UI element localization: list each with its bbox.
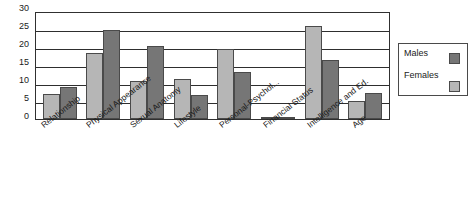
bar-females	[217, 49, 234, 119]
y-tick-label: 15	[19, 58, 29, 67]
y-tick-label: 10	[19, 76, 29, 85]
y-tick-label: 5	[24, 94, 29, 103]
bar-group	[169, 13, 213, 119]
legend-entry-males: Males	[404, 48, 462, 70]
y-tick-label: 25	[19, 22, 29, 31]
bar-males	[365, 93, 382, 119]
x-axis: RelationshipPhysical AppearanceSexual An…	[35, 120, 390, 208]
legend-swatch-females	[449, 81, 460, 92]
y-tick-label: 30	[19, 4, 29, 13]
legend-entry-females: Females	[404, 70, 462, 92]
chart-legend: MalesFemales	[398, 43, 468, 96]
bar-group	[343, 13, 387, 119]
legend-label: Males	[404, 48, 428, 58]
y-tick-label: 20	[19, 40, 29, 49]
legend-label: Females	[404, 70, 439, 80]
y-tick-label: 0	[24, 112, 29, 121]
bar-chart: 302520151050 RelationshipPhysical Appear…	[0, 0, 474, 208]
bar-females	[305, 26, 322, 119]
y-axis: 302520151050	[0, 8, 33, 120]
legend-swatch-males	[449, 53, 460, 64]
